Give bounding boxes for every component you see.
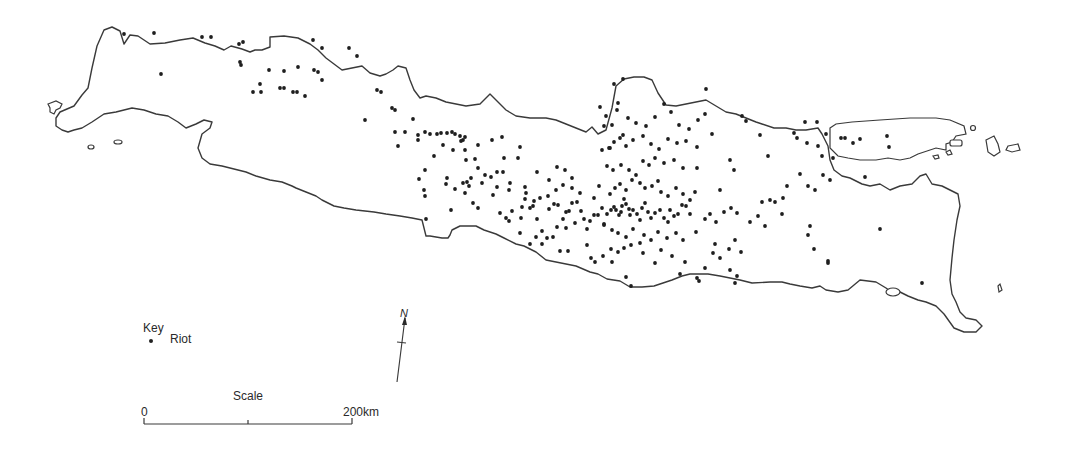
riot-point xyxy=(644,124,648,128)
riot-point xyxy=(320,78,324,82)
riot-point xyxy=(508,181,512,185)
riot-point xyxy=(792,131,796,135)
riot-point xyxy=(885,134,889,138)
riot-point xyxy=(267,68,271,72)
island-southeast-tip xyxy=(998,284,1002,292)
riot-point xyxy=(540,242,544,246)
riot-point xyxy=(681,166,685,170)
riot-point xyxy=(729,206,733,210)
riot-point xyxy=(449,208,453,212)
riot-point xyxy=(555,225,559,229)
scale-bar xyxy=(144,418,352,424)
riot-point xyxy=(760,200,764,204)
island-kangean-2 xyxy=(1006,144,1020,152)
riot-point xyxy=(561,217,565,221)
riot-point xyxy=(710,132,714,136)
riot-point xyxy=(535,217,539,221)
riot-point xyxy=(502,156,506,160)
riot-point xyxy=(828,178,832,182)
riot-point xyxy=(476,166,480,170)
riot-point xyxy=(585,227,589,231)
north-arrow-icon xyxy=(397,316,407,382)
riot-point xyxy=(858,137,862,141)
riot-point xyxy=(241,40,245,44)
riot-point xyxy=(614,208,618,212)
riot-point xyxy=(815,120,819,124)
riot-point xyxy=(445,131,449,135)
riot-point xyxy=(375,88,379,92)
riot-point xyxy=(555,165,559,169)
riot-point xyxy=(445,176,449,180)
riot-point xyxy=(538,196,542,200)
riot-point xyxy=(417,177,421,181)
riot-point xyxy=(483,173,487,177)
riot-point xyxy=(920,281,924,285)
riot-point xyxy=(532,199,536,203)
riot-point xyxy=(647,163,651,167)
riot-point xyxy=(627,168,631,172)
riot-point xyxy=(732,168,736,172)
riot-point xyxy=(641,159,645,163)
riot-point xyxy=(678,272,682,276)
riot-point xyxy=(634,173,638,177)
riot-point xyxy=(735,274,739,278)
island-west-2 xyxy=(114,140,122,144)
riot-point xyxy=(602,124,606,128)
riot-point xyxy=(656,230,660,234)
riot-point xyxy=(490,138,494,142)
riot-point xyxy=(393,130,397,134)
riot-point xyxy=(451,148,455,152)
riot-point xyxy=(618,136,622,140)
riot-point xyxy=(703,266,707,270)
riot-point xyxy=(589,256,593,260)
riot-point xyxy=(813,188,817,192)
riot-point xyxy=(552,202,556,206)
riot-point xyxy=(695,166,699,170)
riot-point xyxy=(258,82,262,86)
riot-point xyxy=(473,157,477,161)
riot-point xyxy=(291,90,295,94)
riot-point xyxy=(504,216,508,220)
riot-point xyxy=(500,135,504,139)
riot-point xyxy=(728,158,732,162)
riot-point xyxy=(523,197,527,201)
riot-point xyxy=(554,188,558,192)
riot-point xyxy=(677,123,681,127)
riot-point xyxy=(684,139,688,143)
riot-point xyxy=(821,173,825,177)
riot-point xyxy=(593,260,597,264)
riot-point xyxy=(465,180,469,184)
riot-point xyxy=(863,175,867,179)
riot-point xyxy=(600,148,604,152)
riot-point xyxy=(609,247,613,251)
riot-point xyxy=(459,139,463,143)
riot-point xyxy=(695,145,699,149)
riot-point xyxy=(476,143,480,147)
riot-point xyxy=(610,228,614,232)
riot-point xyxy=(464,158,468,162)
riot-point xyxy=(605,212,609,216)
riot-point xyxy=(641,134,645,138)
riot-point xyxy=(649,142,653,146)
riot-point xyxy=(713,242,717,246)
riot-point xyxy=(758,133,762,137)
riot-point xyxy=(355,54,359,58)
riot-point xyxy=(561,183,565,187)
riot-point xyxy=(851,141,855,145)
riot-point xyxy=(592,213,596,217)
riot-point xyxy=(518,145,522,149)
riot-point xyxy=(251,90,255,94)
riot-point xyxy=(582,217,586,221)
riot-point xyxy=(631,227,635,231)
riot-point xyxy=(579,209,583,213)
riot-point xyxy=(518,231,522,235)
riot-point xyxy=(601,254,605,258)
riot-point xyxy=(826,259,830,263)
riot-point xyxy=(528,242,532,246)
riot-point xyxy=(624,144,628,148)
riot-point xyxy=(681,192,685,196)
riot-point xyxy=(643,201,647,205)
riot-point xyxy=(756,214,760,218)
riot-point xyxy=(453,132,457,136)
riot-point xyxy=(831,156,835,160)
